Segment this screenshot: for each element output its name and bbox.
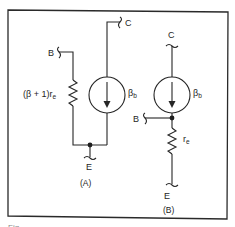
figure-caption-fragment: Fig. xyxy=(8,223,21,227)
figure-frame xyxy=(8,10,228,219)
source-label-b: βb xyxy=(193,88,202,99)
base-label-a: B xyxy=(48,48,54,58)
caption-a: (A) xyxy=(80,178,92,188)
resistor-b xyxy=(168,128,176,154)
panel-a: B (β + 1)re C βb E (A) xyxy=(23,17,137,188)
collector-label-a: C xyxy=(125,18,132,28)
emitter-label-b: E xyxy=(164,191,170,201)
collector-label-b: C xyxy=(168,30,175,40)
emitter-label-a: E xyxy=(86,162,92,172)
collector-terminal-a xyxy=(119,17,122,28)
arrow-down-icon xyxy=(169,101,176,108)
base-label-b: B xyxy=(133,114,139,124)
arrow-down-icon xyxy=(104,101,111,108)
resistor-label-b: re xyxy=(183,134,190,145)
caption-b: (B) xyxy=(163,205,175,215)
source-label-a: βb xyxy=(128,88,137,99)
base-terminal-b xyxy=(144,113,147,124)
circuit-diagram: B (β + 1)re C βb E (A) C xyxy=(0,0,235,227)
panel-b: C βb B re E (B) xyxy=(133,30,202,215)
resistor-a xyxy=(69,80,77,106)
resistor-label-a: (β + 1)re xyxy=(23,89,56,100)
